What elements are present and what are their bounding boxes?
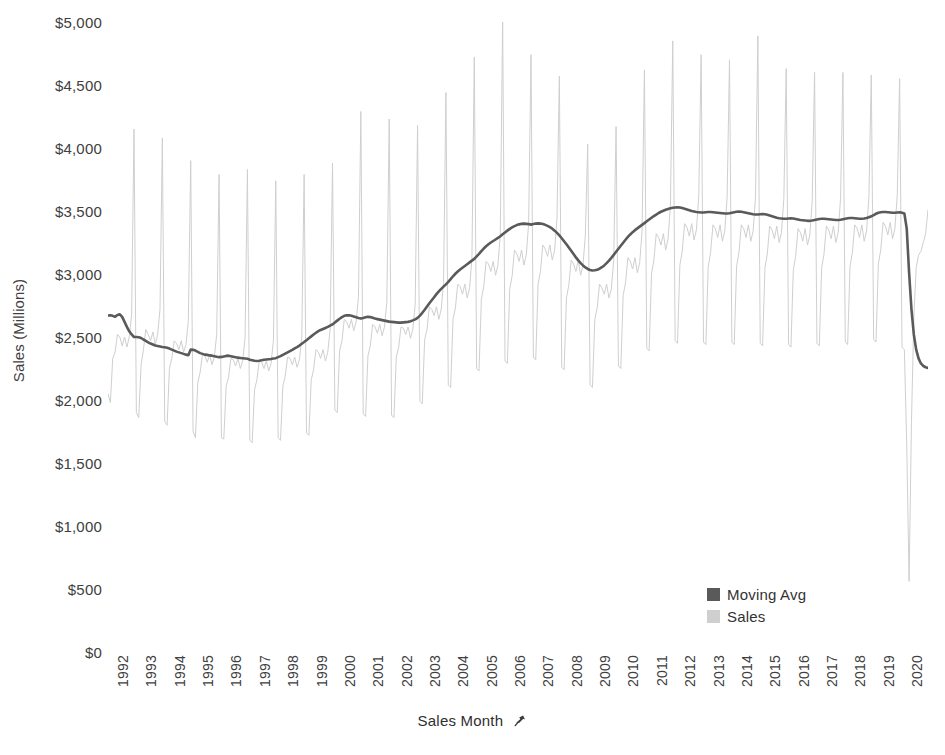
y-axis-tick-labels: $5,000$4,500$4,000$3,500$3,000$2,500$2,0…	[30, 0, 102, 755]
x-axis-tick-label: 2005	[484, 655, 500, 687]
x-axis-tick-label: 1992	[115, 655, 131, 687]
x-axis-tick-label: 1999	[314, 655, 330, 687]
y-axis-tick-label: $3,000	[55, 266, 102, 283]
legend-label: Sales	[727, 608, 766, 625]
sales-chart: Sales (Millions) $5,000$4,500$4,000$3,50…	[0, 0, 945, 755]
y-axis-tick-label: $4,500	[55, 77, 102, 94]
y-axis-tick-label: $4,000	[55, 140, 102, 157]
x-axis-tick-label: 2011	[654, 655, 670, 686]
legend-item[interactable]: Moving Avg	[707, 583, 806, 605]
x-axis-tick-labels: 1992199319941995199619971998199920002001…	[108, 655, 928, 710]
x-axis-tick-label: 2004	[455, 655, 471, 687]
x-axis-tick-label: 2008	[569, 655, 585, 687]
x-axis-tick-label: 1996	[228, 655, 244, 687]
legend-item[interactable]: Sales	[707, 605, 806, 627]
x-axis-tick-label: 2014	[739, 655, 755, 687]
x-axis-tick-label: 2015	[767, 655, 783, 687]
x-axis-tick-label: 2018	[852, 655, 868, 687]
x-axis-tick-label: 2001	[370, 655, 386, 687]
x-axis-tick-label: 2020	[909, 655, 925, 687]
x-axis-tick-label: 2016	[796, 655, 812, 687]
y-axis-tick-label: $5,000	[55, 14, 102, 31]
x-axis-tick-label: 2000	[342, 655, 358, 687]
x-axis-tick-label: 2013	[711, 655, 727, 687]
x-axis-tick-label: 1994	[172, 655, 188, 687]
chart-legend: Moving AvgSales	[707, 583, 806, 627]
plot-area	[108, 22, 928, 652]
pin-icon[interactable]	[514, 713, 527, 730]
x-axis-tick-label: 2017	[824, 655, 840, 687]
legend-swatch	[707, 610, 720, 623]
y-axis-tick-label: $2,000	[55, 392, 102, 409]
x-axis-title-text: Sales Month	[418, 712, 504, 729]
plot-svg	[108, 22, 928, 652]
x-axis-tick-label: 2007	[540, 655, 556, 687]
x-axis-tick-label: 2019	[881, 655, 897, 687]
x-axis-title[interactable]: Sales Month	[0, 712, 945, 730]
x-axis-tick-label: 2010	[625, 655, 641, 687]
x-axis-tick-label: 2003	[427, 655, 443, 687]
x-axis-tick-label: 2009	[597, 655, 613, 687]
legend-swatch	[707, 588, 720, 601]
series-line-sales	[108, 22, 928, 581]
y-axis-tick-label: $2,500	[55, 329, 102, 346]
y-axis-tick-label: $3,500	[55, 203, 102, 220]
y-axis-tick-label: $0	[85, 644, 102, 661]
x-axis-tick-label: 1997	[257, 655, 273, 687]
x-axis-tick-label: 2002	[399, 655, 415, 687]
y-axis-tick-label: $500	[68, 581, 102, 598]
x-axis-tick-label: 1998	[285, 655, 301, 687]
y-axis-tick-label: $1,000	[55, 518, 102, 535]
y-axis-title-text: Sales (Millions)	[11, 278, 28, 381]
x-axis-tick-label: 2012	[682, 655, 698, 687]
y-axis-tick-label: $1,500	[55, 455, 102, 472]
legend-label: Moving Avg	[727, 586, 806, 603]
x-axis-tick-label: 2006	[512, 655, 528, 687]
x-axis-tick-label: 1995	[200, 655, 216, 687]
x-axis-tick-label: 1993	[143, 655, 159, 687]
